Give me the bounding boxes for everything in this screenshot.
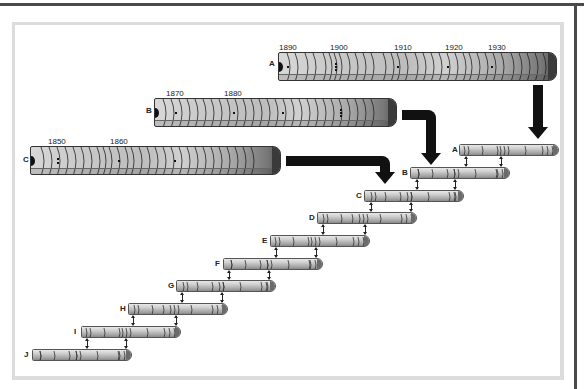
core-label: A: [452, 145, 458, 154]
crossdate-link: [176, 316, 177, 325]
tree-rings-icon: [318, 213, 417, 224]
crossdate-link: [455, 180, 456, 189]
year-label: 1880: [224, 89, 242, 98]
crossdate-link: [182, 293, 183, 302]
tree-rings-icon: [411, 168, 510, 179]
tree-rings-icon: [177, 281, 276, 292]
tree-rings-icon: [224, 259, 323, 270]
crossdate-link: [501, 157, 502, 166]
small-core-d: [317, 212, 417, 224]
core-label: I: [74, 327, 76, 336]
year-label: 1910: [394, 43, 412, 52]
year-label: 1870: [166, 89, 184, 98]
tree-rings-icon: [271, 236, 370, 247]
small-core-e: [270, 235, 370, 247]
crossdate-link: [371, 203, 372, 211]
crossdate-link: [87, 339, 88, 348]
small-core-f: [223, 258, 323, 270]
small-core-h: [128, 303, 228, 315]
crossdate-link: [411, 203, 412, 211]
crossdate-link: [323, 225, 324, 234]
small-core-j: [32, 349, 132, 361]
crossdate-link: [276, 248, 277, 257]
large-tree-core-c: [30, 146, 281, 175]
core-label: E: [262, 236, 267, 245]
core-label: J: [24, 350, 28, 359]
core-bark-end: [388, 99, 396, 126]
large-tree-core-a: [278, 52, 557, 81]
year-label: 1890: [279, 43, 297, 52]
crossdate-link: [133, 316, 134, 325]
tree-rings-icon: [460, 145, 559, 156]
core-label: G: [168, 281, 174, 290]
crossdate-link: [466, 157, 467, 166]
core-label: C: [23, 155, 29, 164]
crossdate-link: [126, 339, 127, 348]
top-rule: [0, 3, 584, 6]
tree-rings-icon: [82, 327, 181, 338]
core-underside: [279, 74, 556, 80]
small-core-b: [410, 167, 510, 179]
right-rule: [574, 3, 577, 389]
tree-rings-icon: [129, 304, 228, 315]
core-label: B: [402, 168, 408, 177]
core-label: F: [215, 259, 220, 268]
crossdate-link: [316, 248, 317, 257]
small-core-a: [459, 144, 559, 156]
small-core-i: [81, 326, 181, 338]
tree-rings-icon: [33, 350, 132, 361]
year-label: 1850: [48, 137, 66, 146]
core-label: H: [120, 304, 126, 313]
small-core-c: [364, 190, 464, 202]
crossdate-link: [417, 180, 418, 189]
year-label: 1860: [110, 137, 128, 146]
core-bark-end: [272, 147, 280, 174]
core-label: B: [146, 106, 152, 115]
core-bark-end: [548, 53, 556, 80]
crossdate-link: [365, 225, 366, 234]
core-label: C: [356, 191, 362, 200]
small-core-g: [176, 280, 276, 292]
year-label: 1920: [445, 43, 463, 52]
core-label: A: [269, 59, 275, 68]
core-underside: [155, 120, 396, 126]
core-underside: [31, 168, 280, 174]
crossdate-link: [229, 271, 230, 279]
year-label: 1900: [330, 43, 348, 52]
crossdate-link: [222, 293, 223, 302]
core-label: D: [309, 213, 315, 222]
tree-rings-icon: [365, 191, 464, 202]
crossdate-link: [269, 271, 270, 279]
large-tree-core-b: [154, 98, 397, 127]
year-label: 1930: [488, 43, 506, 52]
